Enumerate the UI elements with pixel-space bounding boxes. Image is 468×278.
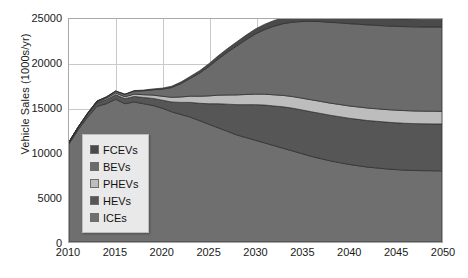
y-tick-label: 20000 [0, 57, 62, 69]
legend-label-ices: ICEs [103, 212, 127, 224]
legend-swatch-hevs [90, 196, 99, 205]
legend-item[interactable]: HEVs [90, 192, 138, 209]
x-tick-label: 2040 [337, 246, 361, 258]
legend-label-phevs: PHEVs [103, 178, 138, 190]
y-tick-label: 25000 [0, 12, 62, 24]
legend-label-hevs: HEVs [103, 195, 131, 207]
legend-label-fcevs: FCEVs [103, 144, 138, 156]
y-tick-label: 0 [0, 237, 62, 249]
y-tick-label: 5000 [0, 192, 62, 204]
y-tick-label: 15000 [0, 102, 62, 114]
legend-item[interactable]: FCEVs [90, 141, 138, 158]
x-tick-label: 2045 [384, 246, 408, 258]
legend-swatch-fcevs [90, 145, 99, 154]
legend-swatch-bevs [90, 162, 99, 171]
legend-label-bevs: BEVs [103, 161, 131, 173]
x-tick-label: 2020 [150, 246, 174, 258]
x-tick-label: 2010 [56, 246, 80, 258]
chart-legend: FCEVs BEVs PHEVs HEVs ICEs [82, 134, 149, 233]
x-tick-label: 2030 [243, 246, 267, 258]
legend-item[interactable]: PHEVs [90, 175, 138, 192]
x-tick-label: 2015 [103, 246, 127, 258]
x-tick-label: 2050 [431, 246, 455, 258]
x-tick-label: 2025 [196, 246, 220, 258]
x-tick-label: 2035 [290, 246, 314, 258]
legend-swatch-phevs [90, 179, 99, 188]
y-tick-label: 10000 [0, 147, 62, 159]
legend-item[interactable]: ICEs [90, 209, 138, 226]
stacked-area-chart: Vehicle Sales (1000s/yr) 050001000015000… [0, 0, 468, 278]
legend-item[interactable]: BEVs [90, 158, 138, 175]
legend-swatch-ices [90, 213, 99, 222]
